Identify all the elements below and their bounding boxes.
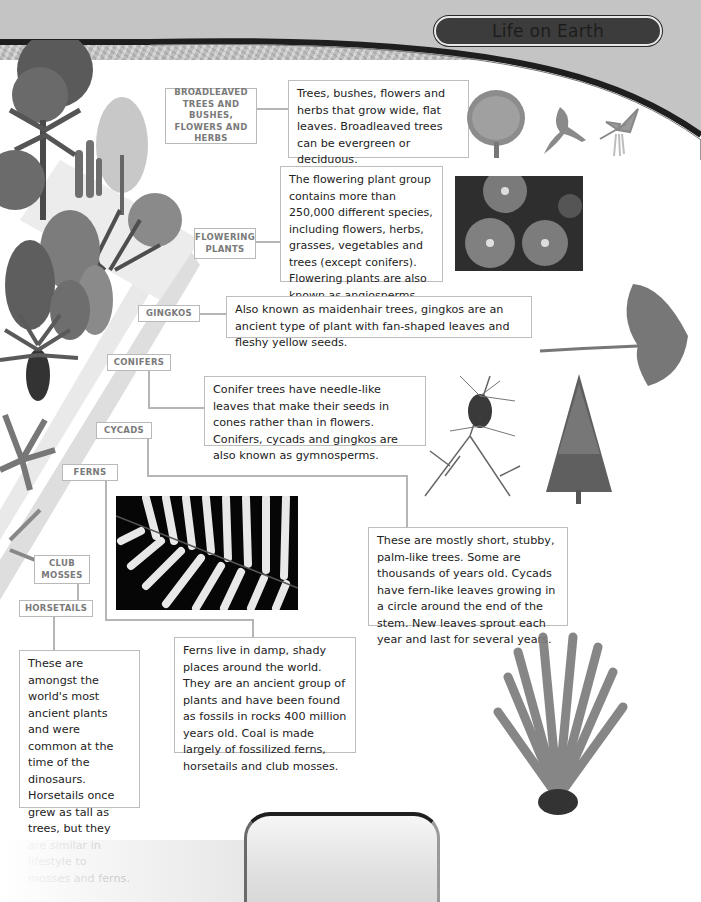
connector-line [148, 370, 150, 408]
cycad-plant-illustration [488, 632, 633, 818]
broadleaf-tree-illustration [466, 88, 526, 160]
bottom-fade [0, 840, 250, 902]
description-horsetails: These are amongst the world's most ancie… [19, 650, 140, 808]
description-cycads: These are mostly short, stubby, palm-lik… [368, 527, 568, 626]
page-title: Life on Earth [492, 21, 604, 41]
connector-line [148, 407, 205, 409]
larch-branch-illustration [420, 356, 530, 506]
connector-line [256, 108, 290, 110]
label-gingkos: GINGKOS [138, 305, 200, 322]
connector-line [200, 313, 228, 315]
connector-line [406, 475, 408, 527]
label-broadleaved: BROADLEAVED TREES AND BUSHES, FLOWERS AN… [165, 88, 257, 144]
fern-frond-photo [116, 496, 298, 610]
label-flowering: FLOWERING PLANTS [194, 228, 256, 259]
catkin-leaf-illustration [598, 104, 643, 159]
description-flowering: The flowering plant group contains more … [280, 166, 443, 282]
description-conifers: Conifer trees have needle-like leaves th… [204, 376, 426, 446]
fir-tree-illustration [540, 374, 618, 506]
connector-line [105, 480, 107, 620]
connector-line [252, 619, 254, 639]
label-ferns: FERNS [62, 464, 118, 481]
connector-line [147, 438, 149, 475]
description-broadleaved: Trees, bushes, flowers and herbs that gr… [288, 80, 469, 158]
label-conifers: CONIFERS [107, 354, 171, 371]
connector-line [105, 619, 253, 621]
label-club-mosses: CLUB MOSSES [34, 555, 90, 584]
section-title-pill: Life on Earth [434, 16, 662, 46]
description-gingkos: Also known as maidenhair trees, gingkos … [226, 296, 532, 338]
description-ferns: Ferns live in damp, shady places around … [174, 637, 356, 753]
connector-line [147, 475, 407, 477]
label-horsetails: HORSETAILS [19, 600, 93, 617]
label-cycads: CYCADS [96, 422, 152, 439]
connector-line [53, 617, 55, 651]
oak-leaf-illustration [542, 102, 592, 162]
page-tab-decoration [244, 812, 440, 902]
connector-line [77, 582, 79, 600]
gerbera-flowers-photo [455, 176, 583, 271]
